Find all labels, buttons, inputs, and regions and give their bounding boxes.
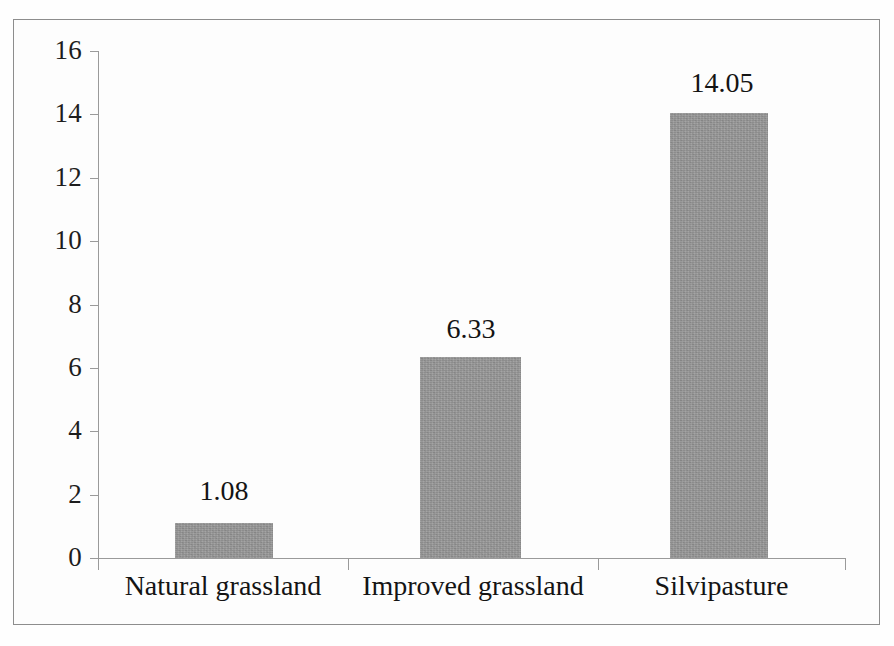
y-tick-label-8: 8: [22, 291, 82, 318]
plot-area: 16 14 12 10 8 6 4 2: [0, 0, 894, 646]
y-tick-label-16: 16: [22, 37, 82, 64]
y-axis-line: [98, 51, 99, 559]
x-boundary-tick-3: [845, 558, 846, 570]
x-boundary-tick-0: [98, 558, 99, 570]
x-axis-line: [98, 558, 846, 559]
x-category-label-natural-grassland: Natural grassland: [98, 571, 348, 602]
x-category-label-silvipasture: Silvipasture: [598, 571, 845, 602]
y-tick-label-14: 14: [22, 100, 82, 127]
y-tick-label-4: 4: [22, 417, 82, 444]
y-tick-label-10: 10: [22, 227, 82, 254]
x-category-label-improved-grassland: Improved grassland: [348, 571, 598, 602]
bar-natural-grassland: [175, 523, 273, 558]
x-boundary-tick-1: [348, 558, 349, 570]
y-tick-label-2: 2: [22, 481, 82, 508]
bar-silvipasture: [670, 113, 768, 558]
x-boundary-tick-2: [598, 558, 599, 570]
bar-improved-grassland: [420, 357, 521, 558]
bar-value-improved-grassland: 6.33: [411, 315, 531, 343]
y-tick-label-0: 0: [22, 544, 82, 571]
y-tick-label-12: 12: [22, 164, 82, 191]
bar-value-silvipasture: 14.05: [662, 69, 782, 97]
y-tick-label-6: 6: [22, 354, 82, 381]
figure: 16 14 12 10 8 6 4 2: [0, 0, 894, 646]
bar-value-natural-grassland: 1.08: [164, 477, 284, 505]
